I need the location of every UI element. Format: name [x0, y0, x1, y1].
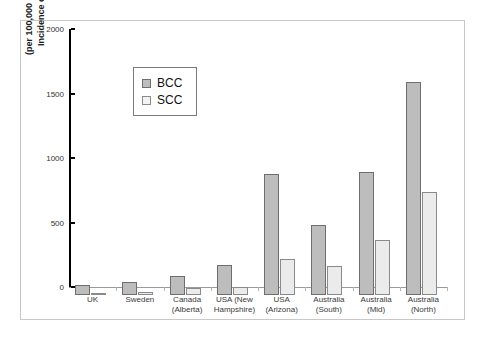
y-tick-label: 0 [60, 283, 64, 292]
y-axis-title-line2: Incidence of BCC/SCC [35, 0, 47, 73]
y-tick-label: 2000 [46, 25, 64, 34]
bar-scc-2[interactable] [186, 288, 201, 295]
y-tick-label: 1500 [46, 89, 64, 98]
category-label-0: UK [69, 295, 116, 305]
category-label-3: USA (New Hampshire) [211, 295, 258, 315]
x-tick-5 [305, 287, 306, 291]
chart-frame: (per 100,000 persons-year) Incidence of … [20, 20, 465, 320]
legend-item-bcc[interactable]: BCC [142, 76, 182, 90]
category-label-7: Australia (North) [400, 295, 447, 315]
bar-group-5 [311, 37, 342, 295]
y-axis-title-line1: (per 100,000 persons-year) [23, 0, 35, 73]
bar-group-6 [359, 37, 390, 295]
bar-bcc-6[interactable] [359, 172, 374, 295]
bar-scc-6[interactable] [375, 240, 390, 295]
chart-legend: BCC SCC [133, 67, 197, 116]
category-label-2: Canada (Alberta) [164, 295, 211, 315]
bar-group-0 [75, 37, 106, 295]
x-tick-end [447, 287, 448, 291]
bar-group-4 [264, 37, 295, 295]
bar-scc-5[interactable] [327, 266, 342, 295]
bar-bcc-5[interactable] [311, 225, 326, 295]
bar-bcc-7[interactable] [406, 82, 421, 295]
bar-bcc-2[interactable] [170, 276, 185, 295]
plot-area: 0500100015002000 UKSwedenCanada (Alberta… [69, 29, 447, 295]
bar-bcc-3[interactable] [217, 265, 232, 295]
category-label-6: Australia (Mid) [353, 295, 400, 315]
legend-label-scc: SCC [157, 93, 182, 107]
bar-bcc-0[interactable] [75, 285, 90, 295]
bar-bcc-4[interactable] [264, 174, 279, 295]
bar-bcc-1[interactable] [122, 282, 137, 295]
bar-group-7 [406, 37, 437, 295]
y-tick-mark [71, 28, 75, 30]
category-label-1: Sweden [116, 295, 163, 305]
bar-scc-4[interactable] [280, 259, 295, 295]
legend-item-scc[interactable]: SCC [142, 93, 182, 107]
bar-group-3 [217, 37, 248, 295]
y-tick-label: 500 [51, 218, 64, 227]
category-label-5: Australia (South) [305, 295, 352, 315]
bar-scc-7[interactable] [422, 192, 437, 295]
x-tick-4 [258, 287, 259, 291]
x-tick-1 [116, 287, 117, 291]
x-tick-2 [164, 287, 165, 291]
category-label-4: USA (Arizona) [258, 295, 305, 315]
legend-label-bcc: BCC [157, 76, 182, 90]
bcc-swatch-icon [142, 79, 151, 88]
bar-scc-3[interactable] [233, 287, 248, 295]
x-tick-3 [211, 287, 212, 291]
x-tick-6 [353, 287, 354, 291]
scc-swatch-icon [142, 96, 151, 105]
x-tick-7 [400, 287, 401, 291]
y-tick-label: 1000 [46, 154, 64, 163]
